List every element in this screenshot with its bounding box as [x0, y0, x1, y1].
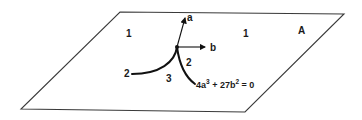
left-branch-label: 2	[124, 68, 130, 79]
right-branch-label: 2	[186, 57, 192, 68]
b-axis-label: b	[210, 42, 216, 53]
a-axis-label: a	[187, 12, 193, 23]
region-label-inside-cusp: 3	[166, 73, 172, 84]
region-label-upper-right: 1	[243, 28, 249, 39]
equation-term-2: + 27b	[210, 80, 236, 90]
equation-term-3: = 0	[239, 80, 254, 90]
plane-label: A	[298, 25, 305, 36]
a-axis-arrow	[177, 18, 185, 47]
cusp-bifurcation-diagram: a b 1 1 A 2 3 2 4a3 + 27b2 = 0	[0, 0, 362, 120]
cusp-equation: 4a3 + 27b2 = 0	[196, 78, 254, 90]
left-branch-curve	[132, 47, 177, 74]
region-label-upper-left: 1	[126, 28, 132, 39]
